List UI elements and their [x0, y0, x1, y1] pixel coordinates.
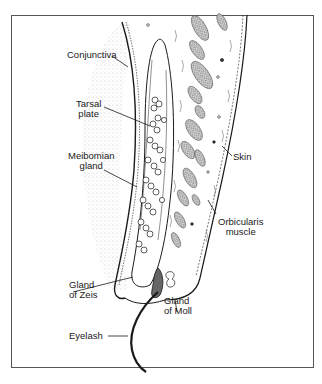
label-orbicularis-muscle: Orbicularis muscle: [218, 217, 263, 237]
label-tarsal-plate: Tarsal plate: [76, 99, 101, 119]
eyelid-illustration: [0, 0, 322, 384]
meibomian-acini: [136, 97, 167, 253]
label-conjunctiva: Conjunctiva: [67, 50, 117, 60]
lid-margin: [125, 298, 165, 304]
label-gland-of-moll: Gland of Moll: [164, 296, 192, 316]
label-eyelash: Eyelash: [69, 331, 103, 341]
gland-of-moll-shape: [166, 272, 175, 287]
label-gland-of-zeis: Gland of Zeis: [69, 280, 98, 300]
label-meibomian-gland: Meibomian gland: [68, 151, 114, 171]
label-skin: Skin: [233, 152, 251, 162]
orbicularis-bundles: [169, 12, 229, 249]
